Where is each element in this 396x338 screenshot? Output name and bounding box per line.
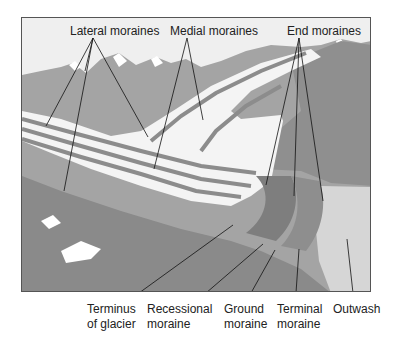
label-outwash: Outwash (333, 302, 380, 316)
label-ground-moraine: Ground moraine (224, 302, 267, 332)
label-medial-moraines: Medial moraines (170, 24, 258, 38)
label-terminus-of-glacier: Terminus of glacier (87, 302, 136, 332)
glacier-illustration (22, 18, 371, 292)
label-terminal-moraine: Terminal moraine (277, 302, 322, 332)
label-end-moraines: End moraines (287, 24, 361, 38)
diagram-frame: Lateral moraines Medial moraines End mor… (21, 17, 371, 292)
label-lateral-moraines: Lateral moraines (70, 24, 159, 38)
label-recessional-moraine: Recessional moraine (147, 302, 212, 332)
